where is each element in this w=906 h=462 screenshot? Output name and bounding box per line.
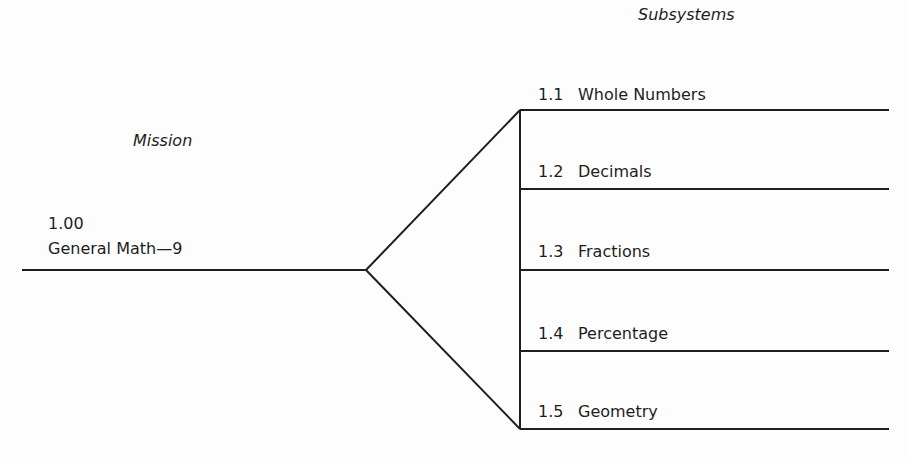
subsystem-number: 1.2 bbox=[538, 163, 578, 181]
subsystem-item: 1.1Whole Numbers bbox=[538, 86, 706, 104]
branch-lower-line bbox=[366, 270, 520, 429]
subsystems-header: Subsystems bbox=[638, 6, 735, 24]
subsystem-number: 1.1 bbox=[538, 86, 578, 104]
subsystem-label: Percentage bbox=[578, 324, 668, 343]
subsystem-item: 1.3Fractions bbox=[538, 243, 650, 261]
subsystem-label: Whole Numbers bbox=[578, 85, 706, 104]
mission-header: Mission bbox=[133, 132, 192, 150]
subsystem-number: 1.5 bbox=[538, 403, 578, 421]
subsystem-label: Fractions bbox=[578, 242, 650, 261]
subsystem-label: Decimals bbox=[578, 162, 652, 181]
diagram-lines bbox=[0, 0, 906, 462]
subsystem-number: 1.3 bbox=[538, 243, 578, 261]
subsystem-item: 1.4Percentage bbox=[538, 325, 668, 343]
subsystem-label: Geometry bbox=[578, 402, 658, 421]
branch-upper-line bbox=[366, 110, 520, 270]
mission-title: General Math—9 bbox=[48, 240, 182, 258]
mission-number: 1.00 bbox=[48, 215, 84, 233]
subsystem-item: 1.2Decimals bbox=[538, 163, 652, 181]
subsystem-number: 1.4 bbox=[538, 325, 578, 343]
subsystem-item: 1.5Geometry bbox=[538, 403, 658, 421]
